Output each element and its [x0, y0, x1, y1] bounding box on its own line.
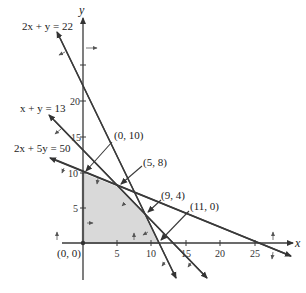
- pointer-arrow-5-8: [121, 166, 142, 184]
- x-tick-20: 20: [215, 248, 225, 259]
- y-tick-10: 10: [68, 168, 78, 179]
- x-tick-25: 25: [250, 248, 260, 259]
- x-tick-10: 10: [146, 248, 156, 259]
- constraint-label-c3: 2x + 5y = 50: [14, 142, 71, 154]
- y-axis-label: y: [78, 3, 85, 17]
- constraint-label-c1: 2x + y = 22: [22, 20, 73, 32]
- pointer-arrow-11-0: [161, 211, 189, 240]
- x-axis-label: x: [294, 236, 301, 250]
- pointer-arrow-9-4: [148, 200, 161, 212]
- vertex-label-5-8: (5, 8): [143, 156, 167, 169]
- small-arrow-icon: [62, 168, 64, 173]
- constraint-label-c2: x + y = 13: [20, 102, 66, 114]
- y-tick-20: 20: [70, 96, 80, 107]
- y-tick-5: 5: [73, 203, 78, 214]
- vertex-label-11-0: (11, 0): [190, 200, 219, 213]
- graph-canvas: 5 10 15 20 25 5 10 15 20 x y 2x + y = 22…: [0, 0, 306, 293]
- small-arrow-icon: [162, 262, 165, 266]
- small-arrow-icon: [272, 252, 273, 259]
- small-arrow-icon: [188, 263, 191, 267]
- origin-vertex: [81, 241, 85, 245]
- vertex-label-0-0: (0, 0): [57, 247, 81, 260]
- small-arrow-icon: [55, 129, 61, 134]
- lp-diagram: 5 10 15 20 25 5 10 15 20 x y 2x + y = 22…: [0, 0, 306, 293]
- x-tick-5: 5: [115, 248, 120, 259]
- vertex-label-9-4: (9, 4): [161, 189, 185, 202]
- y-tick-15: 15: [71, 132, 81, 143]
- small-arrow-icon: [59, 52, 65, 55]
- vertex-label-0-10: (0, 10): [114, 129, 144, 142]
